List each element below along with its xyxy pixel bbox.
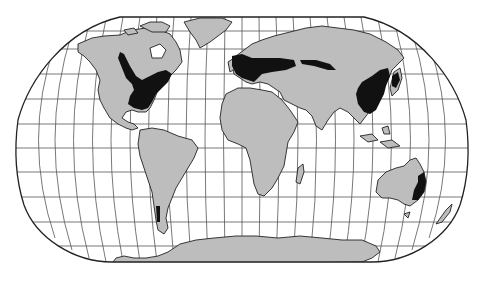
world-map: [0, 0, 484, 294]
